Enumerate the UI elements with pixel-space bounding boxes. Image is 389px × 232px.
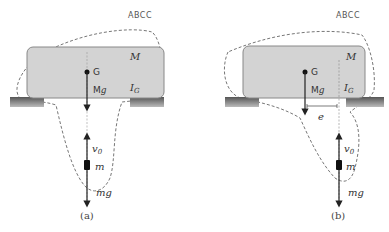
caption-b: (b)	[331, 210, 345, 221]
velocity-label-a: v0	[92, 143, 103, 156]
header-text-b: ABCC	[336, 11, 360, 20]
projectile-weight-label-b: mg	[348, 187, 364, 198]
cog-label-b: G	[311, 67, 318, 77]
panel-b: ABCC G Mg M IG e v0 m mg (b)	[224, 11, 384, 221]
panel-a: ABCC G Mg M IG v0 m mg (a)	[10, 11, 164, 221]
caption-a: (a)	[80, 210, 94, 221]
velocity-label-b: v0	[344, 143, 355, 156]
projectile-a	[84, 160, 90, 170]
mass-label-a: M	[129, 51, 141, 62]
projectile-mass-label-b: m	[346, 161, 355, 172]
header-text-a: ABCC	[128, 11, 152, 20]
weight-label-a: Mg	[93, 85, 107, 95]
impact-diagram: ABCC G Mg M IG v0 m mg (a) ABCC	[0, 0, 389, 232]
eccentricity-label-b: e	[318, 111, 324, 122]
cog-label-a: G	[93, 67, 100, 77]
weight-label-b: Mg	[311, 85, 325, 95]
mass-label-b: M	[345, 51, 357, 62]
projectile-mass-label-a: m	[95, 161, 104, 172]
projectile-weight-label-a: mg	[96, 187, 112, 198]
projectile-b	[336, 160, 342, 170]
